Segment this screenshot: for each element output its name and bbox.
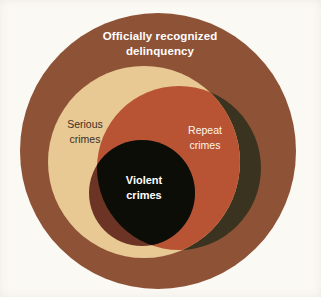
label-serious-crimes-line2: crimes (70, 133, 101, 145)
label-violent-crimes-line2: crimes (126, 189, 161, 201)
label-officially-recognized-delinquency-line2: delinquency (126, 45, 195, 57)
label-repeat-crimes-line1: Repeat (188, 124, 222, 136)
label-serious-crimes-line1: Serious (67, 118, 103, 130)
label-officially-recognized-delinquency-line1: Officially recognized (103, 30, 218, 42)
venn-diagram: Officially recognized delinquency Seriou… (0, 0, 321, 297)
label-repeat-crimes-line2: crimes (190, 139, 221, 151)
label-violent-crimes-line1: Violent (126, 174, 163, 186)
venn-diagram-canvas: Officially recognized delinquency Seriou… (0, 0, 321, 297)
